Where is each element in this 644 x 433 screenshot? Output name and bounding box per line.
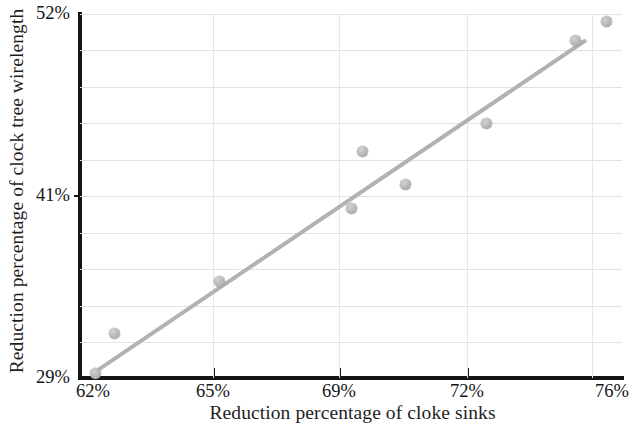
y-tick-label-52: 52% bbox=[8, 3, 70, 24]
data-point bbox=[90, 368, 101, 379]
x-tick-label-72: 72% bbox=[432, 381, 502, 402]
x-tick-label-76: 76% bbox=[580, 381, 644, 402]
plot-area bbox=[80, 14, 622, 378]
data-point bbox=[357, 146, 368, 157]
data-point bbox=[346, 203, 357, 214]
x-tick-label-69: 69% bbox=[304, 381, 374, 402]
x-tick-label-62: 62% bbox=[58, 381, 128, 402]
data-point bbox=[400, 179, 411, 190]
x-tick-label-65: 65% bbox=[178, 381, 248, 402]
y-tick-label-41: 41% bbox=[8, 185, 70, 206]
data-point bbox=[570, 35, 581, 46]
scatter-chart-figure: Reduction percentage of clock tree wirel… bbox=[0, 0, 644, 433]
data-point bbox=[109, 328, 120, 339]
data-point bbox=[601, 16, 612, 27]
data-point bbox=[214, 276, 225, 287]
data-point bbox=[481, 118, 492, 129]
data-points-layer bbox=[80, 14, 622, 378]
x-axis-title: Reduction percentage of cloke sinks bbox=[80, 402, 625, 424]
